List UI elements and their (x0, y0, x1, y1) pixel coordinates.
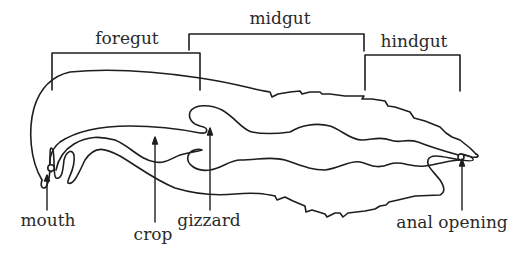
digestive-system-diagram: foregut midgut hindgut mouth crop gizzar… (0, 0, 532, 255)
anal-opening-label: anal opening (396, 214, 507, 231)
mouth-label: mouth (20, 212, 75, 229)
gizzard-arrowhead (208, 128, 213, 135)
crop-label: crop (134, 226, 173, 243)
hindgut-label: hindgut (381, 33, 448, 50)
gizzard-label: gizzard (177, 212, 240, 229)
body-outline-top (31, 70, 476, 180)
body-outline-bottom (275, 154, 473, 217)
foregut-label: foregut (95, 30, 158, 47)
midgut-label: midgut (249, 10, 310, 27)
body-outline-lip (41, 148, 275, 196)
anal-opening-marker (458, 154, 464, 160)
midgut-bracket (189, 34, 364, 51)
hindgut-bracket (365, 55, 460, 91)
pointer-arrows (45, 128, 465, 222)
mouth-opening-marker (48, 165, 54, 171)
crop-arrowhead (153, 137, 158, 144)
